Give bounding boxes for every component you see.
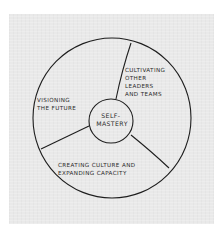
divider-left bbox=[41, 126, 89, 149]
leadership-diagram: SELF- MASTERY CULTIVATING OTHER LEADERS … bbox=[0, 0, 223, 230]
segment-label-creating: CREATING CULTURE AND EXPANDING CAPACITY bbox=[58, 162, 138, 176]
center-label: SELF- MASTERY bbox=[96, 112, 128, 127]
segment-label-visioning: VISIONING THE FUTURE bbox=[36, 97, 76, 111]
segment-label-cultivating: CULTIVATING OTHER LEADERS AND TEAMS bbox=[125, 67, 167, 97]
